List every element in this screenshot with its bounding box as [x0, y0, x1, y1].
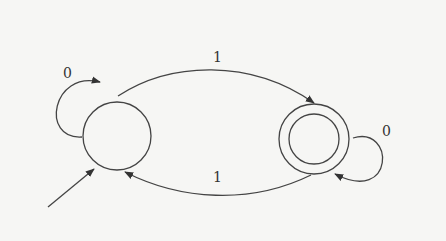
label-q1-self: 0: [382, 123, 391, 139]
state-diagram: 0 1 1 0: [0, 0, 446, 241]
label-q0-q1: 1: [213, 49, 222, 65]
transition-q0-q1: [118, 70, 314, 103]
transition-q0-self: [56, 81, 100, 137]
diagram-svg: 0 1 1 0: [0, 0, 446, 241]
start-arrow-icon: [48, 169, 94, 207]
label-q0-self: 0: [63, 65, 72, 81]
label-q1-q0: 1: [213, 169, 222, 185]
state-q0: [83, 102, 151, 170]
state-q1: [279, 104, 349, 174]
